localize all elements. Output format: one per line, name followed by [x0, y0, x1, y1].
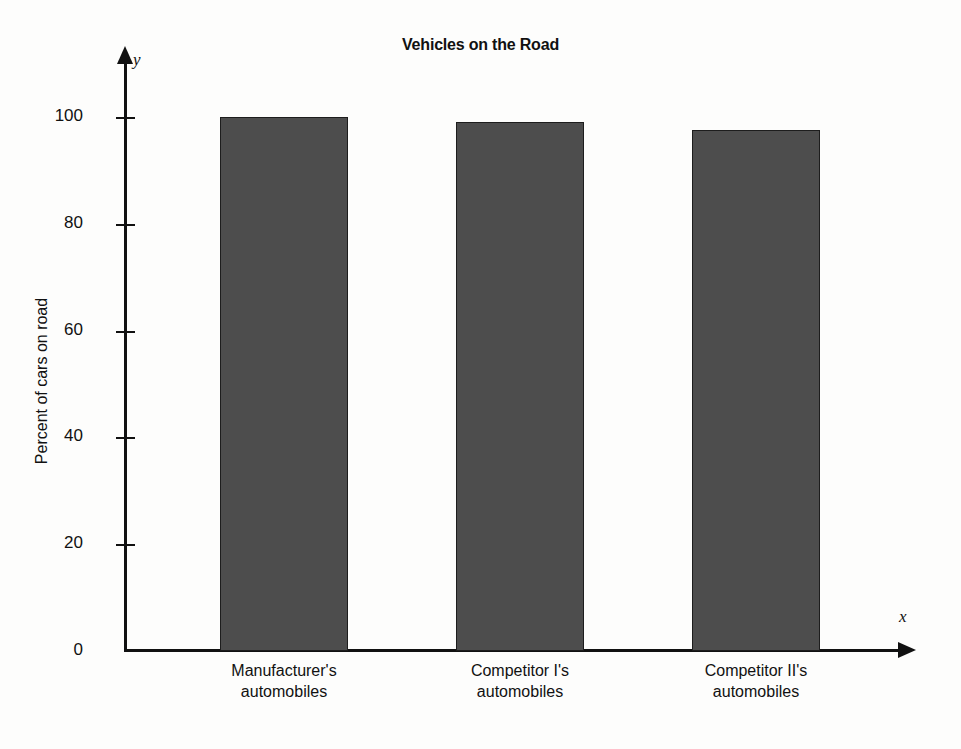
- y-axis-letter: y: [133, 50, 141, 70]
- category-label-line: Competitor I's: [410, 660, 630, 681]
- category-label-line: Competitor II's: [646, 660, 866, 681]
- y-tick-mark: [116, 544, 135, 546]
- y-tick-label: 40: [35, 426, 83, 446]
- y-tick-label: 60: [35, 320, 83, 340]
- x-axis-arrow-icon: [898, 642, 916, 658]
- category-label-line: Manufacturer's: [174, 660, 394, 681]
- category-label-line: automobiles: [174, 681, 394, 702]
- bar[interactable]: [220, 117, 348, 651]
- x-axis-letter: x: [899, 607, 907, 627]
- category-label: Manufacturer'sautomobiles: [174, 660, 394, 702]
- category-label: Competitor II'sautomobiles: [646, 660, 866, 702]
- y-tick-label: 100: [35, 106, 83, 126]
- chart-figure: Vehicles on the Road y x Percent of cars…: [0, 0, 961, 749]
- y-tick-mark: [116, 117, 135, 119]
- y-axis-arrow-icon: [117, 46, 133, 64]
- plot-area: y x Percent of cars on road 020406080100…: [0, 0, 961, 749]
- bar[interactable]: [692, 130, 820, 651]
- category-label-line: automobiles: [646, 681, 866, 702]
- y-axis-line: [124, 62, 127, 652]
- y-tick-label: 80: [35, 213, 83, 233]
- y-tick-mark: [116, 224, 135, 226]
- y-tick-mark: [116, 331, 135, 333]
- y-tick-mark: [116, 437, 135, 439]
- y-tick-label: 20: [35, 533, 83, 553]
- category-label: Competitor I'sautomobiles: [410, 660, 630, 702]
- y-tick-label: 0: [35, 640, 83, 660]
- category-label-line: automobiles: [410, 681, 630, 702]
- bar[interactable]: [456, 122, 584, 651]
- y-axis-title: Percent of cars on road: [33, 281, 51, 481]
